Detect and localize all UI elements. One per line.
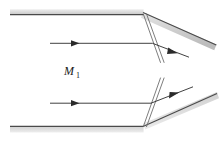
mach-number-symbol: M: [63, 64, 75, 78]
lower-wall-deflected-edge: [143, 94, 217, 127]
lower-streamline-group: [50, 87, 193, 107]
expansion-wave-group: [143, 14, 164, 127]
mach-number-subscript: 1: [76, 71, 80, 80]
upper-incoming-arrowhead: [71, 40, 80, 46]
lower-incoming-arrowhead: [71, 100, 80, 106]
upper-wall-deflected-edge: [143, 13, 216, 45]
upper-streamline-group: [50, 40, 189, 57]
flow-diagram: M 1: [0, 0, 223, 141]
upper-deflected-arrowhead: [167, 48, 178, 54]
lower-deflected-arrowhead: [169, 92, 179, 99]
mach-number-label: M 1: [63, 64, 80, 80]
lower-wall-straight-band: [10, 127, 144, 133]
figure-canvas: M 1: [0, 0, 223, 141]
upper-wall-group: [10, 9, 217, 50]
upper-wall-straight-band: [10, 9, 144, 14]
lower-wall-group: [10, 92, 219, 133]
